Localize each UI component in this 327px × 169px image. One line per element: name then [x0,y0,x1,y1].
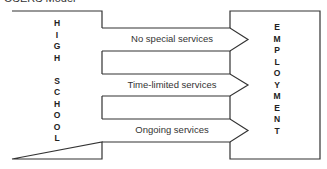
letter: P [274,45,280,57]
letter: L [274,57,279,69]
letter: O [54,110,61,122]
letter: S [54,76,60,88]
letter: T [274,126,279,138]
letter: O [274,68,281,80]
letter: H [54,99,60,111]
letter: O [54,122,61,134]
letter: E [274,22,280,34]
arrow-label-time-limited-services: Time-limited services [112,79,232,90]
letter: N [274,114,280,126]
employment-label: E M P L O Y M E N T [268,22,286,137]
letter: E [274,103,280,115]
letter: G [54,41,61,53]
letter: I [56,30,58,42]
letter: H [54,18,60,30]
arrow-label-no-special-services: No special services [112,33,232,44]
letter: L [54,133,59,145]
letter: H [54,53,60,65]
letter: C [54,87,60,99]
arrow-label-ongoing-services: Ongoing services [112,124,232,135]
letter: M [273,34,280,46]
letter: Y [274,80,280,92]
high-school-label: H I G H S C H O O L [48,18,66,145]
letter: M [273,91,280,103]
